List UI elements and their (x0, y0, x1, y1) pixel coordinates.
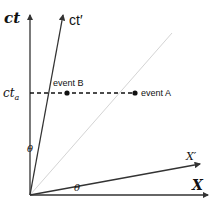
x-axis-label: X (191, 177, 204, 193)
event-b-dot (64, 90, 69, 95)
theta-time-label: θ (27, 143, 33, 154)
ct-prime-axis-label: ct′ (69, 12, 83, 28)
event-a-dot (132, 90, 137, 95)
ct-a-subscript: a (15, 93, 20, 102)
spacetime-diagram: ct ct′ cta event B event A θ θ X′ X (0, 0, 215, 204)
event-b-label: event B (53, 78, 84, 88)
ct-a-main: ct (3, 86, 15, 100)
x-prime-axis-label: X′ (185, 150, 197, 163)
ct-axis-label: ct (4, 9, 20, 27)
ct-prime-axis (30, 15, 63, 195)
x-prime-axis (30, 164, 200, 195)
light-cone-line (30, 33, 172, 195)
ct-a-label: cta (3, 86, 20, 102)
event-a-label: event A (141, 88, 171, 98)
theta-space-label: θ (74, 182, 80, 193)
